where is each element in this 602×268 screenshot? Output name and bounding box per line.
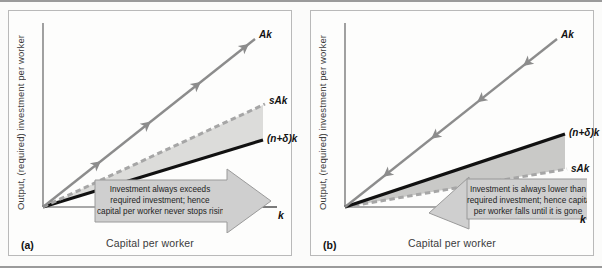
panel-a-x-axis-tick-k: k	[278, 209, 284, 221]
panel-b-callout-line-1: Investment is always lower than	[467, 185, 587, 196]
panel-a: Output, (required) investment per worker	[8, 10, 292, 256]
panel-b-label-nk: (n+δ)k	[569, 127, 599, 138]
panel-b-tag: (b)	[323, 239, 336, 251]
panel-a-plot-area: Investment always exceeds required inves…	[31, 17, 285, 233]
panel-b: Output, (required) investment per worker	[310, 10, 594, 256]
panel-a-svg: Investment always exceeds required inves…	[31, 17, 285, 233]
panel-b-callout-text-wrap: Investment is always lower than required…	[467, 185, 587, 219]
panel-b-label-sak: sAk	[571, 163, 589, 174]
panel-a-callout-line-2: required investment; hence	[97, 196, 223, 207]
panel-a-callout-text-wrap: Investment always exceeds required inves…	[97, 185, 223, 219]
panel-a-label-sak: sAk	[269, 95, 287, 106]
panel-a-tag: (a)	[21, 239, 34, 251]
panel-b-callout-line-2: required investment; hence capital	[467, 196, 587, 207]
panel-b-svg: Investment is always lower than required…	[333, 17, 587, 233]
panel-a-label-ak: Ak	[259, 29, 272, 40]
panel-b-plot-area: Investment is always lower than required…	[333, 17, 587, 233]
panel-a-callout-line-3: capital per worker never stops rising	[97, 207, 223, 218]
figure-container: Output, (required) investment per worker	[0, 0, 602, 268]
panel-a-callout-text: Investment always exceeds required inves…	[97, 185, 223, 217]
panel-b-y-axis-label: Output, (required) investment per worker	[313, 11, 331, 233]
panel-b-callout-line-3: per worker falls until it is gone	[467, 207, 587, 218]
panel-a-callout-line-1: Investment always exceeds	[97, 185, 223, 196]
panel-b-x-axis-tick-k: k	[580, 213, 586, 225]
panel-b-callout-text: Investment is always lower than required…	[467, 185, 587, 217]
panel-b-x-axis-label: Capital per worker	[311, 237, 593, 249]
panel-a-label-nk: (n+δ)k	[267, 133, 297, 144]
panel-a-x-axis-label: Capital per worker	[9, 237, 291, 249]
panel-b-label-ak: Ak	[561, 29, 574, 40]
panel-a-y-axis-label: Output, (required) investment per worker	[11, 11, 29, 233]
